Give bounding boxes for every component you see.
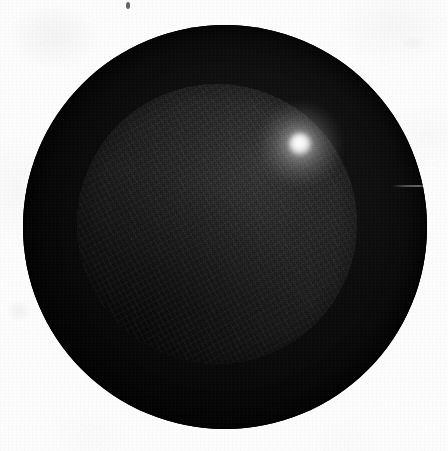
sphere-outer-disc — [23, 25, 427, 429]
dust-speck-icon — [126, 2, 130, 9]
dome-edge-falloff — [77, 84, 357, 364]
photograph-figure — [0, 0, 448, 451]
sphere-inner-dome — [77, 84, 357, 364]
